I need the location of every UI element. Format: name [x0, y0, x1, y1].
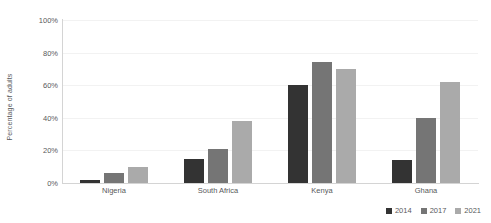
- bar-groups: [62, 20, 478, 183]
- y-axis-tick-label: 100%: [22, 16, 58, 25]
- bar: [336, 69, 356, 183]
- bar: [208, 149, 228, 183]
- x-axis-category-labels: NigeriaSouth AfricaKenyaGhana: [62, 186, 478, 195]
- x-axis-category-label: South Africa: [166, 186, 270, 195]
- bar: [416, 118, 436, 183]
- bar: [80, 180, 100, 183]
- x-axis-category-label: Ghana: [374, 186, 478, 195]
- legend-swatch-icon: [386, 208, 392, 214]
- y-axis-tick-label: 60%: [22, 81, 58, 90]
- bar: [312, 62, 332, 183]
- legend-label: 2017: [430, 206, 447, 215]
- bar-group: [166, 20, 270, 183]
- bar-chart: Percentage of adults 0%20%40%60%80%100% …: [0, 0, 491, 223]
- x-axis-category-label: Nigeria: [62, 186, 166, 195]
- y-axis-title: Percentage of adults: [6, 52, 13, 162]
- bar: [184, 159, 204, 183]
- legend-label: 2014: [395, 206, 412, 215]
- bar-group: [374, 20, 478, 183]
- bar-group: [62, 20, 166, 183]
- y-axis-tick-label: 20%: [22, 146, 58, 155]
- x-axis-line: [62, 183, 479, 184]
- x-axis-category-label: Kenya: [270, 186, 374, 195]
- y-axis-tick-label: 0%: [22, 179, 58, 188]
- legend-item[interactable]: 2021: [455, 206, 481, 215]
- y-axis-tick-labels: 0%20%40%60%80%100%: [18, 20, 58, 183]
- bar: [392, 160, 412, 183]
- bar: [128, 167, 148, 183]
- legend-item[interactable]: 2017: [421, 206, 447, 215]
- legend-swatch-icon: [455, 208, 461, 214]
- legend-item[interactable]: 2014: [386, 206, 412, 215]
- y-axis-tick-label: 80%: [22, 48, 58, 57]
- y-axis-tick-label: 40%: [22, 113, 58, 122]
- bar: [440, 82, 460, 183]
- bar: [232, 121, 252, 183]
- bar: [104, 173, 124, 183]
- bar: [288, 85, 308, 183]
- bar-group: [270, 20, 374, 183]
- chart-legend: 201420172021: [386, 206, 481, 215]
- legend-swatch-icon: [421, 208, 427, 214]
- legend-label: 2021: [464, 206, 481, 215]
